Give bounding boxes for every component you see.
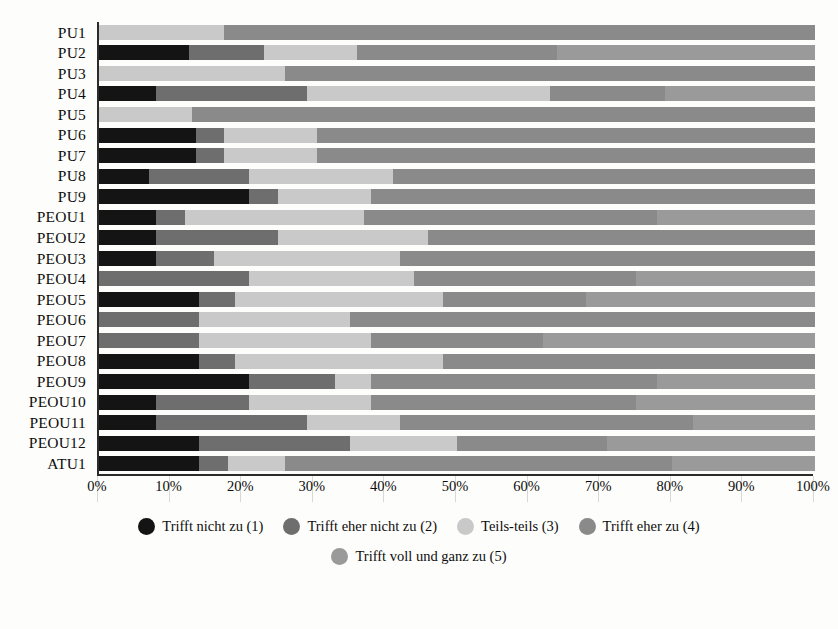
- bar-segment: [99, 169, 149, 184]
- bar-segment: [99, 456, 199, 471]
- bar-segment: [307, 415, 400, 430]
- bar-segment: [414, 271, 636, 286]
- bar-segment: [199, 436, 349, 451]
- x-tick-label: 100%: [796, 478, 830, 495]
- x-tick-label: 90%: [728, 478, 755, 495]
- bar-segment: [371, 374, 657, 389]
- bar-row: [99, 330, 815, 351]
- bar-track: [99, 415, 815, 430]
- category-label: PEOU10: [0, 392, 93, 413]
- bar-row: [99, 351, 815, 372]
- bar-segment: [99, 312, 199, 327]
- category-label: PU7: [0, 145, 93, 166]
- bar-segment: [371, 189, 815, 204]
- bar-segment: [199, 354, 235, 369]
- bar-segment: [156, 415, 306, 430]
- category-label: PEOU4: [0, 269, 93, 290]
- category-label: PU1: [0, 22, 93, 43]
- plot-area: [97, 22, 815, 474]
- category-label: PEOU7: [0, 330, 93, 351]
- bar-segment: [357, 45, 557, 60]
- bar-track: [99, 292, 815, 307]
- bar-segment: [693, 415, 815, 430]
- x-tick-label: 40%: [370, 478, 397, 495]
- bar-segment: [393, 169, 815, 184]
- legend-item[interactable]: Trifft eher zu (4): [579, 518, 700, 535]
- bar-segment: [249, 374, 335, 389]
- bar-segment: [99, 128, 196, 143]
- bar-segment: [99, 271, 249, 286]
- bar-track: [99, 456, 815, 471]
- legend-row-primary: Trifft nicht zu (1)Trifft eher nicht zu …: [0, 518, 838, 535]
- bar-segment: [99, 210, 156, 225]
- bar-segment: [249, 189, 278, 204]
- legend-label: Trifft voll und ganz zu (5): [355, 548, 506, 565]
- bar-segment: [99, 230, 156, 245]
- category-label: PU2: [0, 43, 93, 64]
- bar-row: [99, 43, 815, 64]
- bar-segment: [224, 128, 317, 143]
- bar-segment: [99, 45, 189, 60]
- bar-segment: [224, 25, 815, 40]
- bar-segment: [550, 86, 665, 101]
- bar-segment: [457, 436, 607, 451]
- bar-segment: [371, 395, 636, 410]
- bar-segment: [335, 374, 371, 389]
- bar-segment: [228, 456, 285, 471]
- plot-wrapper: PU1PU2PU3PU4PU5PU6PU7PU8PU9PEOU1PEOU2PEO…: [0, 22, 838, 482]
- bar-row: [99, 63, 815, 84]
- x-tick-label: 70%: [585, 478, 612, 495]
- bar-row: [99, 186, 815, 207]
- bar-row: [99, 412, 815, 433]
- legend-row-secondary: Trifft voll und ganz zu (5): [0, 548, 838, 565]
- bar-segment: [665, 86, 815, 101]
- bar-row: [99, 310, 815, 331]
- bar-track: [99, 169, 815, 184]
- category-label: PEOU3: [0, 248, 93, 269]
- legend-swatch-circle-icon: [331, 548, 348, 565]
- bar-segment: [364, 210, 658, 225]
- legend-swatch-circle-icon: [283, 518, 300, 535]
- category-label: PEOU9: [0, 371, 93, 392]
- bar-track: [99, 374, 815, 389]
- bar-segment: [185, 210, 364, 225]
- bar-segment: [99, 374, 249, 389]
- bar-segment: [196, 148, 225, 163]
- bar-segment: [199, 312, 349, 327]
- bar-segment: [350, 436, 457, 451]
- bar-row: [99, 248, 815, 269]
- legend-item[interactable]: Trifft voll und ganz zu (5): [331, 548, 506, 565]
- category-label: PEOU1: [0, 207, 93, 228]
- bar-segment: [99, 395, 156, 410]
- bar-segment: [400, 415, 694, 430]
- bar-row: [99, 269, 815, 290]
- x-tick-label: 60%: [513, 478, 540, 495]
- legend-label: Trifft nicht zu (1): [162, 518, 263, 535]
- category-label: PEOU11: [0, 412, 93, 433]
- bar-rows-container: [99, 22, 815, 474]
- legend-item[interactable]: Trifft eher nicht zu (2): [283, 518, 437, 535]
- bar-row: [99, 433, 815, 454]
- bar-row: [99, 227, 815, 248]
- bar-track: [99, 189, 815, 204]
- legend-item[interactable]: Trifft nicht zu (1): [138, 518, 263, 535]
- bar-track: [99, 251, 815, 266]
- bar-segment: [189, 45, 264, 60]
- legend-swatch-circle-icon: [457, 518, 474, 535]
- bar-segment: [443, 354, 815, 369]
- bar-segment: [99, 415, 156, 430]
- bar-track: [99, 66, 815, 81]
- stacked-bar-chart: PU1PU2PU3PU4PU5PU6PU7PU8PU9PEOU1PEOU2PEO…: [0, 0, 838, 629]
- bar-track: [99, 45, 815, 60]
- bar-segment: [235, 292, 443, 307]
- bar-track: [99, 271, 815, 286]
- legend-item[interactable]: Teils-teils (3): [457, 518, 559, 535]
- bar-row: [99, 145, 815, 166]
- bar-segment: [156, 251, 213, 266]
- gridline: [815, 22, 816, 474]
- bar-row: [99, 166, 815, 187]
- bar-segment: [156, 230, 278, 245]
- bar-segment: [99, 251, 156, 266]
- bar-row: [99, 371, 815, 392]
- bar-row: [99, 392, 815, 413]
